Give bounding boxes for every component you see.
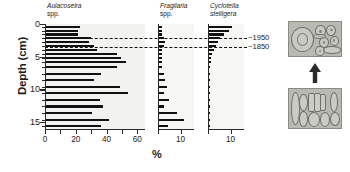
pennate-diatom-icon xyxy=(299,111,308,127)
abundance-bar xyxy=(46,49,97,51)
taxon-name-genus: Cyclotella xyxy=(210,2,239,10)
abundance-bar xyxy=(159,53,162,55)
depth-tick-label: 5 xyxy=(24,52,40,62)
pennate-diatom-icon xyxy=(323,46,341,53)
fragilaria-icon xyxy=(320,94,326,112)
abundance-bar xyxy=(159,41,165,43)
abundance-bar xyxy=(159,49,162,51)
abundance-bar xyxy=(159,99,169,101)
abundance-bar xyxy=(46,41,89,43)
abundance-bar xyxy=(46,33,78,35)
depth-tick-label: 10 xyxy=(24,84,40,94)
depth-tick-label: 15 xyxy=(24,117,40,127)
abundance-bar xyxy=(159,119,184,121)
abundance-bar xyxy=(209,33,224,35)
taxon-name-species: spp. xyxy=(160,10,172,18)
abundance-bar xyxy=(46,53,117,55)
micrograph-content-top xyxy=(289,22,341,56)
abundance-bar xyxy=(46,30,78,32)
pennate-diatom-icon xyxy=(308,112,320,127)
abundance-bar xyxy=(159,86,167,88)
abundance-bar xyxy=(46,73,101,75)
taxon-name-genus: Aulacoseira xyxy=(47,2,81,10)
percent-axis-label: % xyxy=(152,148,162,160)
abundance-bar xyxy=(209,57,211,59)
abundance-bar xyxy=(209,105,210,107)
pennate-diatom-icon xyxy=(320,112,330,127)
abundance-bar xyxy=(209,119,210,121)
abundance-bar xyxy=(209,73,210,75)
centric-diatom-icon xyxy=(291,27,314,52)
abundance-bar xyxy=(209,53,212,55)
abundance-bar xyxy=(209,41,218,43)
abundance-bar xyxy=(209,26,232,28)
taxon-panel: Fragilariaspp. xyxy=(158,0,194,172)
abundance-bar xyxy=(46,125,101,127)
diatom-stratigraphy-figure: Depth (cm) 05101502040601010 Aulacoseira… xyxy=(0,0,350,172)
correlation-dashed-line xyxy=(45,47,247,48)
pennate-diatom-icon xyxy=(330,92,338,112)
plot-area xyxy=(208,24,244,130)
date-annotation-label: ~1950 xyxy=(248,33,269,42)
centric-diatom-icon xyxy=(326,25,336,36)
centric-diatom-icon xyxy=(330,36,339,46)
abundance-bar xyxy=(46,79,94,81)
abundance-bar xyxy=(46,105,103,107)
abundance-bar xyxy=(159,79,165,81)
taxon-name-species: stelligera xyxy=(210,10,236,18)
arrow-up-icon xyxy=(307,62,323,84)
abundance-bar xyxy=(46,99,100,101)
abundance-bar xyxy=(209,92,210,94)
abundance-bar xyxy=(159,57,162,59)
taxon-name-genus: Fragilaria xyxy=(160,2,187,10)
abundance-bar xyxy=(209,30,229,32)
depth-axis-label: Depth (cm) xyxy=(16,22,28,110)
abundance-bar xyxy=(209,66,210,68)
abundance-bar xyxy=(46,92,128,94)
date-annotation-label: ~1850 xyxy=(248,42,269,51)
plot-area xyxy=(158,24,194,130)
abundance-bar xyxy=(46,26,80,28)
micrograph-content-bottom xyxy=(289,89,341,128)
abundance-bar xyxy=(159,92,164,94)
abundance-bar xyxy=(159,33,162,35)
pennate-diatom-icon xyxy=(313,34,326,39)
abundance-bar xyxy=(209,86,210,88)
taxon-panel: Cyclotellastelligera xyxy=(208,0,244,172)
abundance-bar xyxy=(159,66,162,68)
abundance-bar xyxy=(209,99,210,101)
abundance-bar xyxy=(159,26,162,28)
abundance-bar xyxy=(159,105,164,107)
abundance-bar xyxy=(46,119,109,121)
abundance-bar xyxy=(209,79,210,81)
abundance-bar xyxy=(46,86,120,88)
pennate-diatom-icon xyxy=(299,94,308,112)
abundance-bar xyxy=(46,61,126,63)
older-sediment-micrograph xyxy=(288,88,342,129)
plot-area xyxy=(45,24,145,130)
abundance-bar xyxy=(46,112,92,114)
taxon-panel: Aulacoseiraspp. xyxy=(45,0,145,172)
abundance-bar xyxy=(209,125,210,127)
abundance-bar xyxy=(159,30,162,32)
abundance-bar xyxy=(209,112,210,114)
abundance-bar xyxy=(159,112,177,114)
correlation-dashed-line xyxy=(45,38,247,39)
abundance-bar xyxy=(209,49,214,51)
taxon-name-species: spp. xyxy=(47,10,59,18)
abundance-bar xyxy=(159,125,168,127)
pennate-diatom-icon xyxy=(330,112,340,126)
abundance-bar xyxy=(46,57,121,59)
abundance-bar xyxy=(159,73,164,75)
recent-sediment-micrograph xyxy=(288,21,342,57)
abundance-bar xyxy=(46,66,117,68)
depth-tick-label: 0 xyxy=(24,19,40,29)
abundance-bar xyxy=(159,61,162,63)
abundance-bar xyxy=(209,61,211,63)
